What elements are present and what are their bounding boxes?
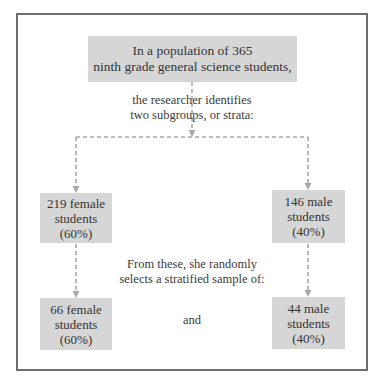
arrow-down-icon (73, 291, 80, 298)
sample-male-box: 44 male students (40%) (272, 297, 345, 349)
stratum-female-box: 219 female students (60%) (40, 193, 112, 243)
population-box: In a population of 365 ninth grade gener… (88, 36, 297, 82)
arrow-down-icon (73, 186, 80, 193)
stratum-male-box: 146 male students (40%) (272, 190, 345, 243)
and-connector-text: and (172, 313, 212, 328)
sample-female-box: 66 female students (60%) (40, 298, 112, 350)
population-line-1: In a population of 365 (133, 43, 253, 59)
population-line-2: ninth grade general science students, (93, 59, 291, 75)
arrow-down-icon (189, 130, 196, 137)
arrow-down-icon (305, 290, 312, 297)
identify-strata-text: the researcher identifies two subgroups,… (92, 93, 292, 122)
sample-selection-text: From these, she randomly selects a strat… (112, 257, 272, 286)
arrow-down-icon (305, 183, 312, 190)
